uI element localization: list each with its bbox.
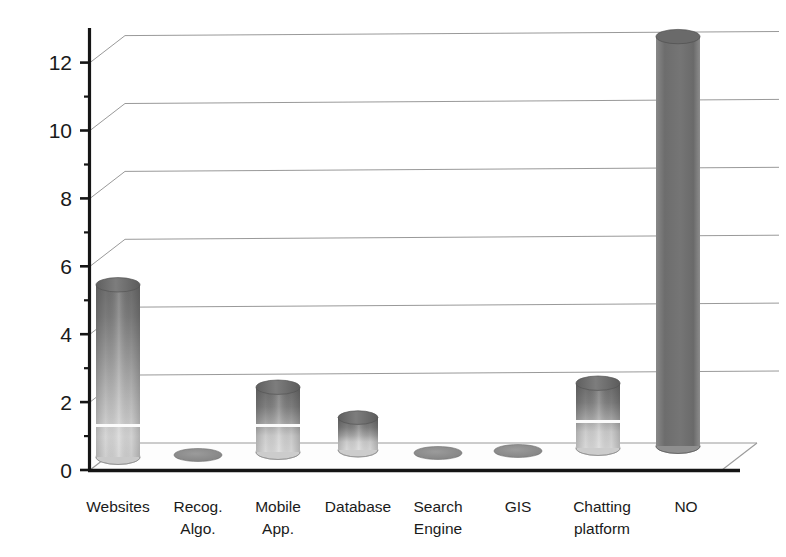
bar-top-cap <box>656 29 700 43</box>
x-tick-label-recog-algo-line1: Recog. <box>173 498 222 515</box>
bar-no[interactable] <box>656 29 700 453</box>
bar-body-shading <box>96 285 140 457</box>
x-tick-label-search-engine-line2: Engine <box>414 520 462 537</box>
y-tick-label-4: 4 <box>60 323 72 346</box>
bar-database[interactable] <box>338 411 378 457</box>
bar-top-cap <box>96 278 140 292</box>
bar-zero-marker <box>174 449 222 462</box>
y-tick-label-2: 2 <box>60 391 72 414</box>
bar-top-cap <box>576 376 620 390</box>
bar-zero-marker <box>414 447 462 460</box>
bar-body-shading <box>256 387 300 452</box>
x-tick-label-recog-algo-line2: Algo. <box>180 520 215 537</box>
bar-separator-band <box>576 420 620 423</box>
y-tick-label-8: 8 <box>60 187 72 210</box>
y-axis <box>80 28 90 470</box>
bar-search-engine[interactable] <box>414 447 462 460</box>
x-tick-label-chatting-platform-line2: platform <box>574 520 630 537</box>
y-tick-label-6: 6 <box>60 255 72 278</box>
bar-body <box>656 37 700 446</box>
bar-zero-marker <box>494 445 542 458</box>
x-tick-label-gis: GIS <box>505 498 532 515</box>
x-tick-label-no: NO <box>674 498 697 515</box>
x-tick-label-mobile-app-line1: Mobile <box>255 498 301 515</box>
bar-body-shading <box>576 383 620 448</box>
x-tick-label-mobile-app-line2: App. <box>262 520 294 537</box>
y-tick-label-12: 12 <box>49 51 72 74</box>
x-tick-labels: Websites Recog. Algo. Mobile App. Databa… <box>86 498 697 537</box>
bar-websites[interactable] <box>96 278 140 465</box>
bar-chatting-platform[interactable] <box>576 376 620 456</box>
bar-separator-band <box>96 424 140 427</box>
y-tick-label-0: 0 <box>60 459 72 482</box>
bar-top-cap <box>256 380 300 394</box>
chart-canvas: 0 2 4 6 8 10 12 <box>0 0 786 557</box>
bar-separator-band <box>256 424 300 427</box>
x-tick-label-database: Database <box>325 498 391 515</box>
y-tick-label-10: 10 <box>49 119 72 142</box>
bar-gis[interactable] <box>494 445 542 458</box>
y-tick-labels: 0 2 4 6 8 10 12 <box>49 51 73 481</box>
bar-top-cap <box>338 411 378 425</box>
x-tick-label-websites: Websites <box>86 498 150 515</box>
cylinder-bar-chart: 0 2 4 6 8 10 12 <box>0 0 786 557</box>
x-tick-label-chatting-platform-line1: Chatting <box>573 498 631 515</box>
bar-mobile-app[interactable] <box>256 380 300 460</box>
x-tick-label-search-engine-line1: Search <box>413 498 462 515</box>
bar-recog-algo[interactable] <box>174 449 222 462</box>
